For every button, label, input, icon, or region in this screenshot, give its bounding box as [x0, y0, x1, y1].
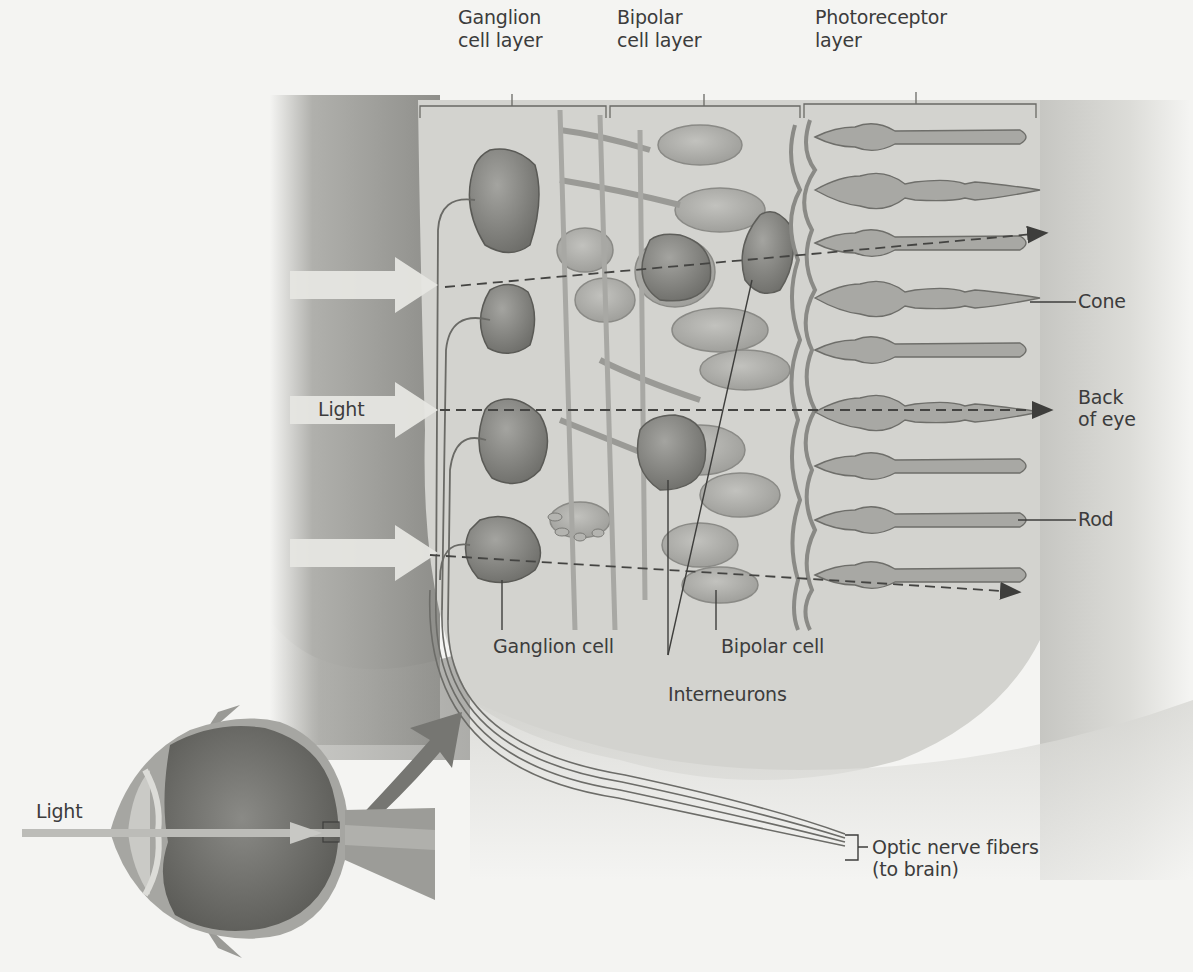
- ganglion-layer-label: Ganglion cell layer: [458, 6, 542, 52]
- bipolar-layer-label: Bipolar cell layer: [617, 6, 701, 52]
- retina-diagram: Ganglion cell layer Bipolar cell layer P…: [0, 0, 1193, 972]
- photoreceptors: [815, 124, 1040, 589]
- eye-light-label: Light: [36, 800, 82, 822]
- optic-nerve-label: Optic nerve fibers (to brain): [872, 836, 1039, 880]
- interneurons-label: Interneurons: [668, 683, 787, 705]
- photoreceptor-layer-label: Photoreceptor layer: [815, 6, 947, 52]
- cone-label: Cone: [1078, 290, 1126, 312]
- diagram-canvas: [0, 0, 1193, 972]
- bipolar-cell-label: Bipolar cell: [721, 635, 824, 657]
- back-of-eye-label: Back of eye: [1078, 386, 1136, 430]
- light-label: Light: [318, 398, 364, 420]
- rod-label: Rod: [1078, 508, 1113, 530]
- ganglion-cell-label: Ganglion cell: [493, 635, 614, 657]
